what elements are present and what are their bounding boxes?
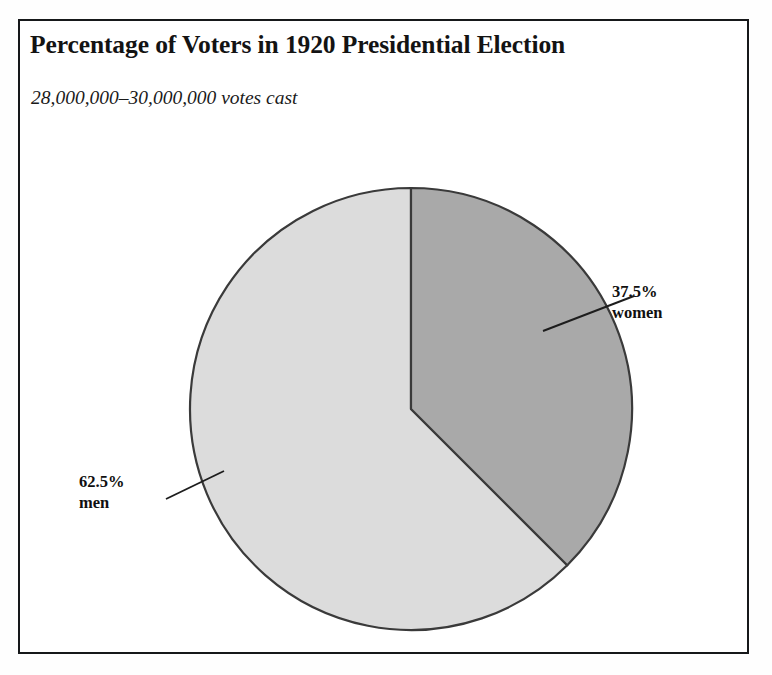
pie-label-women: 37.5% women	[612, 281, 662, 324]
pie-label-women-name: women	[612, 302, 662, 323]
pie-label-women-percent: 37.5%	[612, 282, 657, 301]
pie-chart-figure: Percentage of Voters in 1920 Presidentia…	[0, 0, 772, 675]
pie-graphic	[0, 0, 772, 675]
pie-label-men-name: men	[79, 492, 124, 513]
pie-label-men: 62.5% men	[79, 471, 124, 514]
pie-label-men-percent: 62.5%	[79, 472, 124, 491]
